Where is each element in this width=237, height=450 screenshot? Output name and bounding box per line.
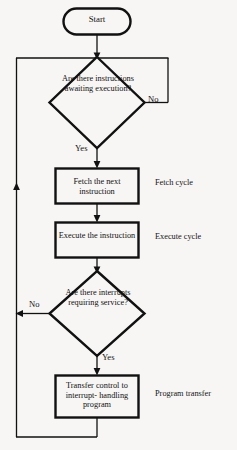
annotation-fetch-cycle: Fetch cycle — [155, 178, 193, 187]
fetch-process-label: Fetch the next instruction — [57, 177, 137, 196]
annotation-program-transfer: Program transfer — [155, 389, 211, 398]
edge-label-yes-interrupts: Yes — [102, 353, 115, 363]
start-terminator-label: Start — [63, 14, 131, 24]
edge-label-yes-instructions: Yes — [75, 144, 88, 154]
arrowhead-return-up — [13, 183, 20, 191]
transfer-process-label: Transfer control to interrupt- handling … — [57, 381, 137, 410]
decision-instructions-label: Are there instructions awaiting executio… — [57, 74, 139, 93]
edge-label-no-interrupts: No — [29, 300, 40, 310]
decision-interrupts-label: Are there interrupts requiring service? — [57, 288, 139, 307]
edge-label-no-instructions: No — [148, 95, 159, 105]
annotation-execute-cycle: Execute cycle — [155, 232, 201, 241]
flowchart-canvas: Start Are there instructions awaiting ex… — [0, 0, 237, 450]
decision-interrupts-shape — [50, 271, 145, 356]
decision-instructions-shape — [50, 57, 145, 148]
execute-process-label: Execute the instruction — [57, 231, 137, 241]
